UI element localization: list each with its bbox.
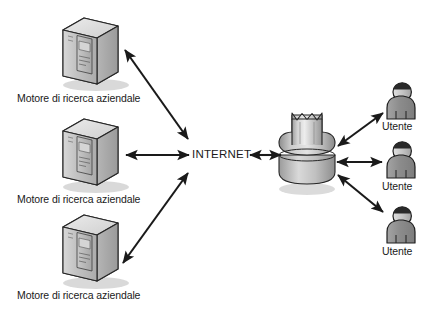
user-person-icon-1 xyxy=(387,83,415,119)
gateway-firewall-icon xyxy=(279,113,335,195)
server-tower-icon-2 xyxy=(63,119,129,193)
server-label-3: Motore di ricerca aziendale xyxy=(17,290,140,301)
server-tower-icon-3 xyxy=(63,215,129,289)
network-diagram-canvas: Motore di ricerca aziendale Motore di ri… xyxy=(0,0,439,316)
user-label-1: Utente xyxy=(382,121,412,132)
user-label-3: Utente xyxy=(382,246,412,257)
internet-label: INTERNET xyxy=(192,149,251,161)
user-person-icon-3 xyxy=(387,207,415,243)
server-label-2: Motore di ricerca aziendale xyxy=(17,194,140,205)
user-label-2: Utente xyxy=(382,181,412,192)
server-label-1: Motore di ricerca aziendale xyxy=(17,93,140,104)
connection-gateway-user3 xyxy=(338,175,383,212)
connection-server3-internet xyxy=(123,173,188,263)
user-person-icon-2 xyxy=(387,142,415,178)
server-tower-icon-1 xyxy=(63,18,129,91)
connection-gateway-user1 xyxy=(338,113,383,146)
